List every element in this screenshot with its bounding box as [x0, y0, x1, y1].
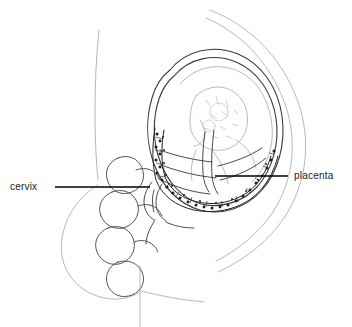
membrane-fold-3	[218, 148, 262, 166]
amniotic-sac	[180, 67, 272, 182]
fetal-limb-2	[236, 140, 256, 168]
placenta-outer-edge	[153, 128, 278, 212]
maternal-abdomen-outline	[210, 10, 306, 272]
lower-segment-base	[166, 222, 194, 228]
placenta-previa-figure: cervix placenta	[0, 0, 352, 327]
placenta-villi-stipple	[155, 133, 276, 210]
anatomical-illustration	[0, 0, 352, 327]
membrane-fold-1	[160, 150, 212, 162]
umbilical-cord-edge	[212, 130, 218, 194]
label-placenta: placenta	[294, 170, 333, 181]
lower-abdomen-outline	[141, 291, 204, 302]
fetal-head	[190, 87, 248, 150]
uterus-outline-inner	[154, 58, 277, 206]
cervical-canal	[153, 190, 155, 212]
bowel-loops	[96, 156, 162, 296]
maternal-back-outline	[95, 30, 99, 180]
vaginal-wall	[146, 220, 155, 244]
placenta-tissue	[153, 128, 278, 212]
label-cervix: cervix	[10, 181, 37, 192]
fetal-limb-1	[191, 150, 196, 180]
membrane-fold-2	[164, 166, 216, 178]
